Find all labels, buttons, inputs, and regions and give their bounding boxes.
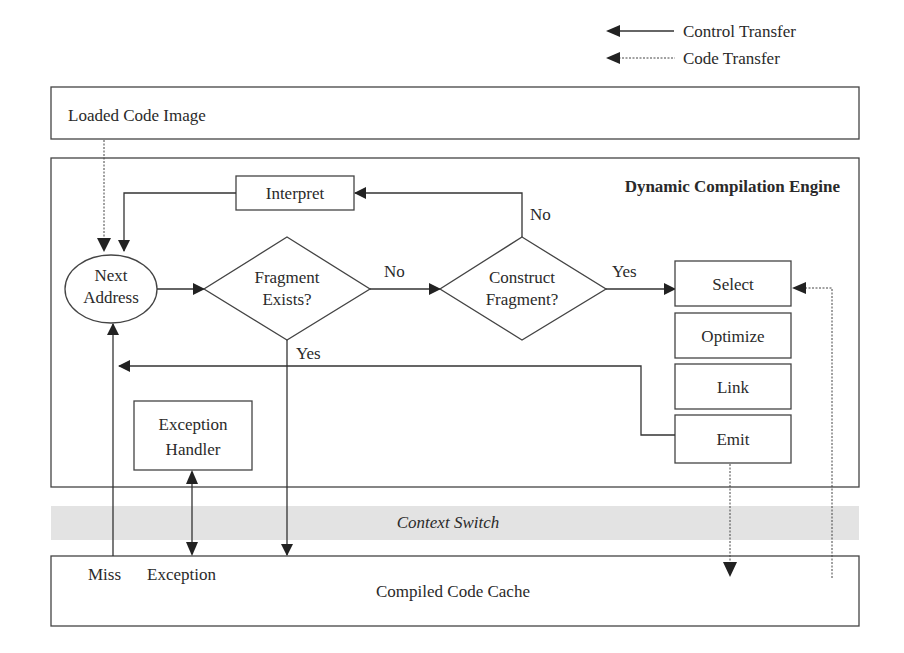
exception-handler-box [134, 401, 252, 470]
next-address-label-2: Address [83, 288, 139, 307]
fragment-exists-label-1: Fragment [254, 268, 319, 287]
loaded-code-image-label: Loaded Code Image [68, 106, 206, 125]
emit-label: Emit [716, 430, 749, 449]
compiled-code-cache-label: Compiled Code Cache [376, 582, 530, 601]
fragment-yes-label: Yes [296, 344, 321, 363]
exception-handler-label-1: Exception [159, 415, 228, 434]
link-label: Link [717, 378, 750, 397]
legend-code-transfer-label: Code Transfer [683, 49, 780, 68]
dynamic-compilation-diagram: Control Transfer Code Transfer Loaded Co… [0, 0, 904, 653]
construct-no-label: No [530, 205, 551, 224]
legend-code-transfer: Code Transfer [606, 49, 780, 68]
legend: Control Transfer Code Transfer [606, 22, 796, 68]
fragment-no-label: No [384, 262, 405, 281]
select-label: Select [712, 275, 754, 294]
legend-control-transfer: Control Transfer [606, 22, 796, 41]
construct-yes-label: Yes [612, 262, 637, 281]
engine-title: Dynamic Compilation Engine [625, 177, 841, 196]
arrowhead-icon [606, 52, 620, 64]
exception-handler-label-2: Handler [166, 440, 221, 459]
fragment-exists-label-2: Exists? [262, 290, 311, 309]
construct-fragment-label-1: Construct [489, 268, 555, 287]
miss-label: Miss [88, 565, 121, 584]
legend-control-transfer-label: Control Transfer [683, 22, 796, 41]
exception-label: Exception [147, 565, 216, 584]
arrowhead-icon [606, 25, 620, 37]
interpret-label: Interpret [266, 184, 325, 203]
arrowhead-down-icon [186, 542, 198, 556]
optimize-label: Optimize [701, 327, 764, 346]
context-switch-label: Context Switch [397, 513, 499, 532]
construct-fragment-label-2: Fragment? [486, 290, 559, 309]
next-address-label-1: Next [94, 266, 127, 285]
